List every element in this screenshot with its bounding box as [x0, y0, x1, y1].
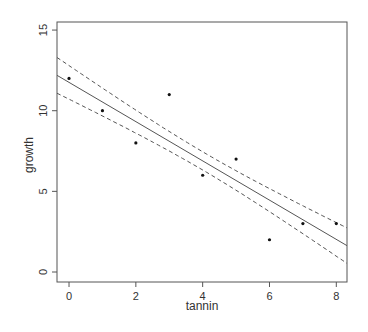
data-point [101, 109, 104, 112]
y-axis-label: growth [22, 137, 36, 173]
x-axis-label: tannin [186, 299, 219, 313]
y-tick-label: 5 [37, 188, 49, 194]
data-point [335, 222, 338, 225]
y-tick-label: 0 [37, 269, 49, 275]
data-point [67, 77, 70, 80]
x-tick-label: 6 [266, 290, 272, 302]
x-tick-label: 2 [133, 290, 139, 302]
scatter-plot: 02468 051015 tannin growth [0, 0, 368, 332]
data-point [234, 157, 237, 160]
x-tick-label: 0 [66, 290, 72, 302]
y-tick-label: 15 [37, 24, 49, 36]
x-tick-label: 8 [333, 290, 339, 302]
data-point [201, 174, 204, 177]
y-tick-label: 10 [37, 105, 49, 117]
data-point [168, 93, 171, 96]
data-point [268, 238, 271, 241]
data-point [134, 141, 137, 144]
data-point [301, 222, 304, 225]
